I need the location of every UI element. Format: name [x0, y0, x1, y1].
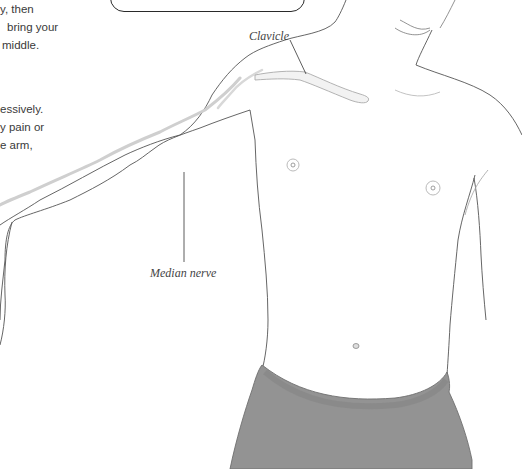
navel [353, 344, 359, 349]
clavicle-bone [255, 71, 369, 103]
shoulder-right-outline [416, 30, 522, 135]
label-clavicle: Clavicle [249, 29, 289, 44]
neck-contour [395, 0, 455, 35]
median-nerve [0, 78, 240, 205]
nipple-left-center [291, 163, 295, 167]
torso-left-outline [255, 140, 268, 370]
nipple-left [287, 159, 299, 171]
anatomy-figure [0, 0, 522, 469]
armpit-outline [250, 110, 255, 140]
back-outline [474, 178, 486, 320]
nipple-right-center [431, 186, 435, 190]
document-page: y, then bring your middle. essively. y p… [0, 0, 522, 469]
nipple-right [426, 181, 440, 195]
torso-right-outline [447, 175, 475, 375]
clavicle-leader-line [290, 40, 306, 74]
label-median-nerve: Median nerve [150, 266, 216, 281]
arm-upper-outline [0, 0, 346, 225]
shorts [230, 365, 472, 469]
collar-contour [395, 90, 440, 96]
arm-lower-outline [0, 110, 250, 320]
